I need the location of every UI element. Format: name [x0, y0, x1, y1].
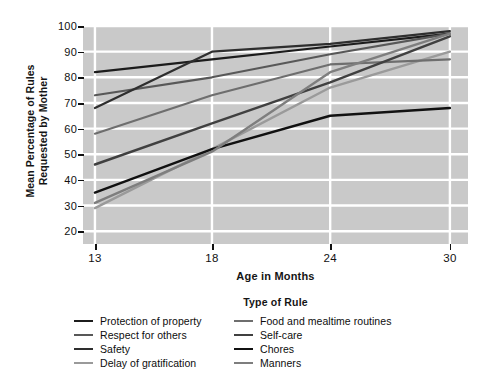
legend-item-label: Respect for others — [100, 329, 187, 341]
x-axis-tick-mark — [330, 244, 332, 250]
y-axis-tick-mark — [78, 129, 84, 131]
legend-item[interactable]: Safety — [74, 342, 224, 356]
y-axis-tick-mark — [78, 103, 84, 105]
legend: Protection of propertyFood and mealtime … — [74, 314, 474, 370]
y-axis-tick-mark — [78, 206, 84, 208]
y-axis-tick-label: 60 — [47, 123, 77, 135]
legend-title: Type of Rule — [83, 296, 468, 308]
y-axis-tick-mark — [78, 180, 84, 182]
x-axis-tick-mark — [95, 244, 97, 250]
legend-item[interactable]: Respect for others — [74, 328, 224, 342]
legend-line-swatch-icon — [234, 320, 253, 322]
legend-item[interactable]: Self-care — [234, 328, 449, 342]
legend-line-swatch-icon — [74, 320, 93, 322]
y-axis-tick-mark — [78, 231, 84, 233]
y-axis-tick-label: 100 — [47, 20, 77, 32]
y-axis-tick-label: 40 — [47, 174, 77, 186]
legend-item[interactable]: Chores — [234, 342, 449, 356]
legend-item-label: Delay of gratification — [100, 357, 196, 369]
legend-item[interactable]: Food and mealtime routines — [234, 314, 449, 328]
plot-area — [83, 26, 468, 244]
x-axis-tick-label: 30 — [430, 252, 470, 264]
legend-line-swatch-icon — [74, 348, 93, 350]
legend-item-label: Food and mealtime routines — [260, 315, 391, 327]
x-axis-tick-label: 24 — [310, 252, 350, 264]
legend-item-label: Safety — [100, 343, 130, 355]
legend-item[interactable]: Protection of property — [74, 314, 224, 328]
legend-item[interactable]: Delay of gratification — [74, 356, 224, 370]
plot-lines — [83, 26, 468, 244]
legend-line-swatch-icon — [74, 334, 93, 336]
x-axis-tick-label: 18 — [192, 252, 232, 264]
data-series-line — [95, 34, 450, 96]
x-axis-tick-mark — [450, 244, 452, 250]
x-axis-title: Age in Months — [83, 270, 468, 282]
y-axis-tick-mark — [78, 77, 84, 79]
legend-item[interactable]: Manners — [234, 356, 449, 370]
legend-line-swatch-icon — [234, 348, 253, 350]
figure: Mean Percentage of Rules Requested by Mo… — [0, 0, 488, 384]
legend-line-swatch-icon — [74, 362, 93, 364]
legend-line-swatch-icon — [234, 362, 253, 364]
y-axis-tick-mark — [78, 154, 84, 156]
data-series-line — [95, 52, 450, 208]
legend-line-swatch-icon — [234, 334, 253, 336]
y-axis-tick-mark — [78, 26, 84, 28]
y-axis-tick-label: 20 — [47, 225, 77, 237]
legend-item-label: Self-care — [260, 329, 302, 341]
y-axis-tick-label: 90 — [47, 46, 77, 58]
y-axis-tick-labels: 2030405060708090100 — [45, 26, 77, 244]
legend-item-label: Manners — [260, 357, 301, 369]
y-axis-tick-label: 30 — [47, 200, 77, 212]
y-axis-tick-label: 80 — [47, 71, 77, 83]
y-axis-tick-label: 50 — [47, 148, 77, 160]
legend-item-label: Chores — [260, 343, 294, 355]
x-axis-tick-label: 13 — [75, 252, 115, 264]
y-axis-tick-mark — [78, 52, 84, 54]
legend-item-label: Protection of property — [100, 315, 202, 327]
x-axis-tick-mark — [212, 244, 214, 250]
data-series-line — [95, 59, 450, 133]
data-series-line — [95, 36, 450, 164]
y-axis-tick-label: 70 — [47, 97, 77, 109]
